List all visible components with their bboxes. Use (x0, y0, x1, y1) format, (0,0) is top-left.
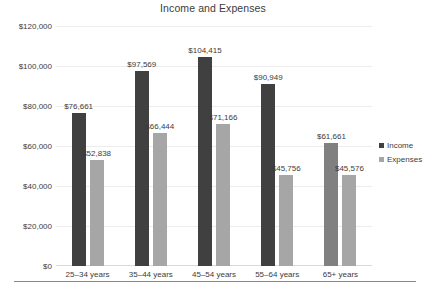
x-axis-tick-label: 65+ years (323, 270, 358, 279)
plot-area: $76,661$52,838$97,569$66,444$104,415$71,… (56, 26, 372, 266)
chart-legend: IncomeExpenses (379, 141, 422, 164)
legend-label: Income (387, 141, 413, 150)
bar-value-label: $90,949 (254, 73, 283, 82)
bar-group: $97,569$66,444 (119, 26, 182, 266)
bar-value-label: $104,415 (188, 46, 221, 55)
bar-value-label: $76,661 (64, 102, 93, 111)
y-axis-tick-label: $80,000 (0, 102, 52, 111)
bar-income[interactable]: $104,415 (198, 57, 212, 266)
bar-group: $61,661$45,576 (309, 26, 372, 266)
bar-group: $76,661$52,838 (56, 26, 119, 266)
legend-item-income[interactable]: Income (379, 141, 422, 150)
bar-income[interactable]: $90,949 (261, 84, 275, 266)
bar-expenses[interactable]: $45,756 (279, 175, 293, 267)
bar-income[interactable]: $76,661 (72, 113, 86, 266)
bar-expenses[interactable]: $52,838 (90, 160, 104, 266)
legend-swatch-icon (379, 143, 384, 148)
y-axis-tick-label: $120,000 (0, 22, 52, 31)
income-and-expenses-chart: Income and Expenses $76,661$52,838$97,56… (0, 0, 426, 289)
bar-group: $104,415$71,166 (182, 26, 245, 266)
legend-item-expenses[interactable]: Expenses (379, 155, 422, 164)
bar-value-label: $61,661 (317, 132, 346, 141)
y-axis-tick-label: $40,000 (0, 182, 52, 191)
y-axis-tick-label: $0 (0, 262, 52, 271)
chart-title: Income and Expenses (0, 2, 426, 14)
bar-value-label: $97,569 (127, 60, 156, 69)
bar-group: $90,949$45,756 (246, 26, 309, 266)
y-axis-tick-label: $100,000 (0, 62, 52, 71)
chart-frame-bottom-border (14, 281, 416, 282)
legend-label: Expenses (387, 155, 422, 164)
x-axis-tick-label: 45–54 years (192, 270, 236, 279)
x-axis-tick-label: 35–44 years (129, 270, 173, 279)
bar-value-label: $71,166 (209, 113, 238, 122)
x-axis-tick-label: 55–64 years (255, 270, 299, 279)
bar-value-label: $52,838 (82, 149, 111, 158)
y-axis-tick-label: $60,000 (0, 142, 52, 151)
bar-income[interactable]: $61,661 (324, 143, 338, 266)
y-axis-tick-label: $20,000 (0, 222, 52, 231)
bar-value-label: $66,444 (145, 122, 174, 131)
bar-income[interactable]: $97,569 (135, 71, 149, 266)
bar-value-label: $45,756 (272, 164, 301, 173)
bar-expenses[interactable]: $66,444 (153, 133, 167, 266)
x-axis-tick-label: 25–34 years (66, 270, 110, 279)
bar-expenses[interactable]: $45,576 (342, 175, 356, 266)
legend-swatch-icon (379, 157, 384, 162)
bar-value-label: $45,576 (335, 164, 364, 173)
bar-expenses[interactable]: $71,166 (216, 124, 230, 266)
